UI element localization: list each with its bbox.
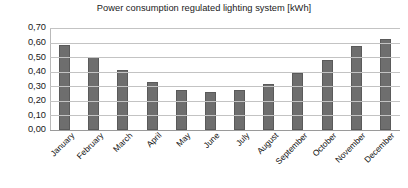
x-axis-tick-text: April [145, 131, 163, 149]
gridline [50, 43, 400, 44]
chart-title: Power consumption regulated lighting sys… [0, 2, 408, 14]
gridline [50, 57, 400, 58]
x-axis-tick-text: January [49, 131, 76, 158]
x-axis-tick-label: January [49, 131, 76, 158]
x-axis-tick-text: July [234, 131, 251, 148]
gridline [50, 86, 400, 87]
bar[interactable] [147, 82, 158, 130]
x-axis-tick-label: April [145, 131, 163, 149]
bar[interactable] [351, 46, 362, 130]
bar[interactable] [263, 84, 274, 130]
bar-chart: Power consumption regulated lighting sys… [0, 0, 408, 188]
y-axis-tick-label: 0,10 [2, 111, 46, 120]
plot-area [50, 28, 400, 130]
gridline [50, 101, 400, 102]
x-axis-tick-text: August [255, 131, 280, 156]
gridline [50, 28, 400, 29]
y-axis-tick-label: 0,60 [2, 38, 46, 47]
x-axis-tick-text: March [111, 131, 134, 154]
x-axis-tick-label: November [334, 131, 368, 165]
bar[interactable] [117, 70, 128, 130]
y-axis-tick-label: 0,20 [2, 96, 46, 105]
x-axis-tick-label: July [234, 131, 251, 148]
y-axis-tick-label: 0,00 [2, 125, 46, 134]
x-axis-tick-label: June [203, 131, 222, 150]
bar[interactable] [205, 92, 216, 130]
x-axis-tick-text: February [75, 131, 105, 161]
x-axis-tick-text: May [175, 131, 193, 149]
y-axis-tick-label: 0,50 [2, 53, 46, 62]
x-axis-tick-label: December [363, 131, 397, 165]
bar[interactable] [322, 60, 333, 130]
x-axis-tick-label: August [255, 131, 280, 156]
y-axis-tick-label: 0,40 [2, 67, 46, 76]
gridline [50, 72, 400, 73]
x-axis: JanuaryFebruaryMarchAprilMayJuneJulyAugu… [50, 131, 400, 188]
y-axis-tick-label: 0,70 [2, 23, 46, 32]
bar[interactable] [88, 57, 99, 130]
x-axis-tick-label: March [111, 131, 134, 154]
y-axis: 0,700,600,500,400,300,200,100,00 [0, 0, 46, 188]
x-axis-tick-text: June [203, 131, 222, 150]
x-axis-tick-text: November [334, 131, 368, 165]
x-axis-tick-label: February [75, 131, 105, 161]
y-axis-tick-label: 0,30 [2, 82, 46, 91]
bar[interactable] [234, 90, 245, 130]
x-axis-tick-label: May [175, 131, 193, 149]
bar[interactable] [176, 90, 187, 131]
x-axis-tick-text: December [363, 131, 397, 165]
gridline [50, 115, 400, 116]
